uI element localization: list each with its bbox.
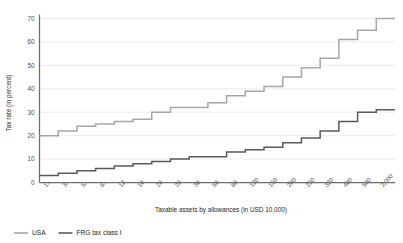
chart-legend: USAFRG tax class I	[14, 229, 122, 236]
y-tick-label: 30	[27, 109, 35, 116]
x-tick-label: 150	[266, 175, 278, 188]
y-tick-label: 0	[31, 179, 35, 186]
y-axis-title: Tax rate (in percent)	[5, 75, 13, 132]
series-line-usa	[40, 19, 396, 136]
y-axis-tick-labels: 010203040506070	[27, 15, 35, 186]
y-tick-label: 20	[27, 132, 35, 139]
x-tick-label: 500	[360, 175, 372, 188]
legend-label: USA	[32, 229, 46, 236]
x-tick-label: 400	[341, 175, 353, 188]
legend-label: FRG tax class I	[77, 229, 122, 236]
y-tick-label: 70	[27, 15, 35, 22]
x-axis-tick-labels: 1358121624283650801201502002503204005002…	[42, 172, 395, 188]
x-axis-title: Taxable assets by allowances (in USD 10,…	[155, 206, 287, 214]
x-tick-label: 320	[323, 175, 335, 188]
y-tick-label: 10	[27, 155, 35, 162]
x-tick-label: 120	[248, 175, 260, 188]
x-tick-label: 250	[304, 175, 316, 188]
y-tick-label: 40	[27, 85, 35, 92]
x-tick-label: 200	[285, 175, 297, 188]
series-line-frg-tax-class-i	[40, 110, 396, 176]
x-tick-label: 2,000	[379, 172, 395, 188]
y-tick-label: 50	[27, 62, 35, 69]
y-tick-label: 60	[27, 38, 35, 45]
tax-rate-step-chart: 010203040506070 135812162428365080120150…	[0, 0, 403, 243]
chart-container: 010203040506070 135812162428365080120150…	[0, 0, 403, 243]
